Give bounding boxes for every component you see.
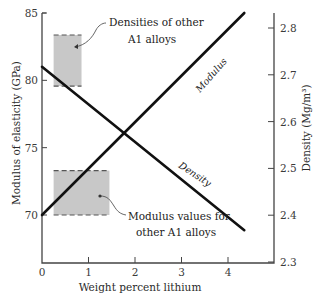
y-right-tick-label: 2.5 xyxy=(280,162,297,174)
series-label-density: Density xyxy=(176,159,214,189)
annotation-densities-line2: A1 alloys xyxy=(127,33,176,45)
y-right-tick-label: 2.7 xyxy=(280,69,297,81)
x-tick-label: 1 xyxy=(85,266,92,278)
x-tick-label: 0 xyxy=(39,266,46,278)
x-tick-label: 2 xyxy=(132,266,139,278)
y-left-tick-label: 80 xyxy=(25,74,38,86)
y-right-tick-label: 2.4 xyxy=(280,209,297,221)
x-tick-label: 4 xyxy=(225,266,232,278)
annotation-densities-line1: Densities of other xyxy=(109,16,205,28)
x-tick-label: 3 xyxy=(178,266,185,278)
y-left-tick-label: 75 xyxy=(25,142,38,154)
y-right-tick-label: 2.8 xyxy=(280,22,297,34)
annotation-modulus-line1: Modulus values for xyxy=(128,210,231,222)
y-right-tick-label: 2.6 xyxy=(280,116,297,128)
y-left-tick-label: 85 xyxy=(25,7,38,19)
y-right-axis-title: Density (Mg/m³) xyxy=(300,85,312,172)
x-axis-title: Weight percent lithium xyxy=(79,281,202,293)
annotation-dot xyxy=(98,194,101,197)
annotation-modulus-line2: other A1 alloys xyxy=(136,226,216,238)
y-left-tick-label: 70 xyxy=(25,209,38,221)
chart: 01234707580852.32.42.52.62.72.8Weight pe… xyxy=(0,0,322,301)
shaded-regions xyxy=(54,35,110,215)
series-label-modulus: Modulus xyxy=(193,56,229,96)
y-left-axis-title: Modulus of elasticity (GPa) xyxy=(10,61,22,205)
y-right-tick-label: 2.3 xyxy=(280,256,297,268)
